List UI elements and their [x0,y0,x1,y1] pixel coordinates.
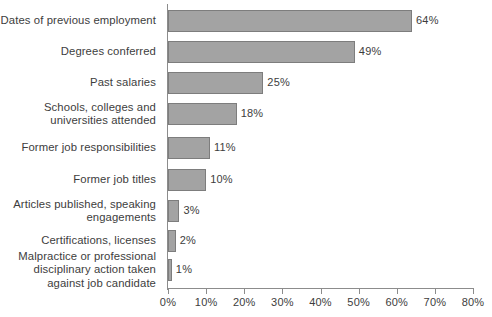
bar [168,103,237,125]
bar-row: Degrees conferred49% [0,41,492,63]
category-label-line: Degrees conferred [61,45,156,58]
bar-row: Past salaries25% [0,72,492,94]
category-label-text: Degrees conferred [61,45,156,58]
category-label: Dates of previous employment [0,10,162,32]
category-label-text: Former job titles [73,173,156,186]
category-label: Schools, colleges anduniversities attend… [0,103,162,125]
x-axis-tick-label: 0% [160,296,176,308]
bar [168,72,263,94]
bar-value-label: 2% [180,234,196,246]
category-label-text: Former job responsibilities [21,141,156,154]
x-axis-tick [168,289,169,294]
category-label-line: Former job titles [73,173,156,186]
category-label: Former job titles [0,169,162,191]
category-label-line: engagements [13,211,156,224]
bar-row: Schools, colleges anduniversities attend… [0,103,492,125]
category-label-line: Dates of previous employment [1,14,156,27]
bar-row: Dates of previous employment64% [0,10,492,32]
x-axis-tick-label: 40% [309,296,332,308]
category-label-text: Schools, colleges anduniversities attend… [44,101,156,127]
x-axis-tick-label: 20% [233,296,256,308]
category-label: Former job responsibilities [0,137,162,159]
category-label: Past salaries [0,72,162,94]
bar-row: Malpractice or professionaldisciplinary … [0,259,492,281]
x-axis-tick [321,289,322,294]
bar-row: Former job titles10% [0,169,492,191]
bar-value-label: 18% [241,107,264,119]
bar-value-label: 25% [267,76,290,88]
category-label: Degrees conferred [0,41,162,63]
category-label: Articles published, speakingengagements [0,200,162,222]
bar [168,137,210,159]
category-label-line: Articles published, speaking [13,198,156,211]
category-label: Certifications, licenses [0,230,162,252]
bar-value-label: 64% [416,14,439,26]
x-axis-tick-label: 80% [462,296,485,308]
category-label-text: Malpractice or professionaldisciplinary … [18,250,156,290]
x-axis-tick [282,289,283,294]
category-label-line: universities attended [44,114,156,127]
x-axis-tick-label: 70% [424,296,447,308]
category-label: Malpractice or professionaldisciplinary … [0,259,162,281]
bar-value-label: 10% [210,173,233,185]
bar-row: Articles published, speakingengagements3… [0,200,492,222]
x-axis-tick [397,289,398,294]
bar [168,259,172,281]
x-axis-tick [206,289,207,294]
bar-row: Former job responsibilities11% [0,137,492,159]
category-label-line: Malpractice or professional [18,250,156,263]
bar-chart: Dates of previous employment64%Degrees c… [0,0,492,317]
x-axis-tick [435,289,436,294]
category-label-line: against job candidate [18,277,156,290]
category-label-line: disciplinary action taken [18,263,156,276]
category-label-line: Former job responsibilities [21,141,156,154]
x-axis-tick-label: 60% [385,296,408,308]
x-axis-tick [359,289,360,294]
bar [168,230,176,252]
bar-value-label: 1% [176,263,192,275]
x-axis-tick-label: 10% [195,296,218,308]
bar [168,200,179,222]
bar [168,10,412,32]
x-axis-tick-label: 30% [271,296,294,308]
category-label-line: Past salaries [90,76,156,89]
x-axis-tick [473,289,474,294]
category-label-line: Certifications, licenses [41,234,156,247]
x-axis-tick-label: 50% [347,296,370,308]
bar-row: Certifications, licenses2% [0,230,492,252]
bar-value-label: 11% [214,141,236,153]
category-label-text: Past salaries [90,76,156,89]
bar [168,41,355,63]
bar-value-label: 49% [359,45,382,57]
x-axis-tick [244,289,245,294]
bar-value-label: 3% [183,204,199,216]
category-label-line: Schools, colleges and [44,101,156,114]
bar [168,169,206,191]
category-label-text: Articles published, speakingengagements [13,198,156,224]
category-label-text: Certifications, licenses [41,234,156,247]
category-label-text: Dates of previous employment [1,14,156,27]
